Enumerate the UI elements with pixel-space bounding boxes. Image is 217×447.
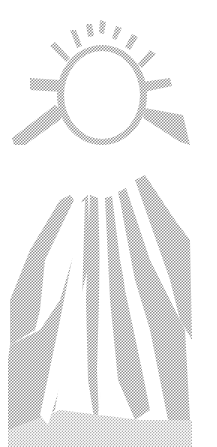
sun	[57, 45, 147, 145]
sun-rays-illustration	[0, 0, 217, 447]
